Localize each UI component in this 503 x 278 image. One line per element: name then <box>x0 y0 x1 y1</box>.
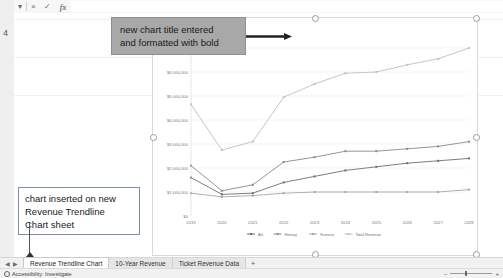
zoom-slider-thumb[interactable] <box>465 271 467 276</box>
chart-marker <box>314 83 316 85</box>
callout-line: and formatted with bold <box>120 36 245 49</box>
legend-label: History <box>285 232 297 237</box>
chevron-down-icon[interactable]: ▾ <box>18 3 22 11</box>
x-axis-tick-label: 2024 <box>341 220 351 225</box>
line-chart-svg: $0$1,000,000$2,000,000$3,000,000$4,000,0… <box>155 40 475 253</box>
first-sheet-icon[interactable]: ◀ <box>5 260 10 267</box>
chart-marker <box>406 64 408 66</box>
resize-handle-top[interactable] <box>312 15 319 22</box>
chart-x-axis-labels: 2019202020212022202320242025202620272028 <box>186 220 474 225</box>
resize-handle-top-right[interactable] <box>473 15 480 22</box>
sheet-tab-label: Revenue Trendline Chart <box>30 260 102 267</box>
chart-legend: ArtHistoryScienceTotal Revenue <box>247 232 382 237</box>
chart-marker <box>314 191 316 193</box>
chart-marker <box>437 145 439 147</box>
x-axis-tick-label: 2022 <box>279 220 289 225</box>
chart-marker <box>344 150 346 152</box>
chart-marker <box>314 175 316 177</box>
last-sheet-icon[interactable]: ▶ <box>13 260 18 267</box>
chart-marker <box>252 184 254 186</box>
y-axis-tick-label: $1,000,000 <box>167 190 189 195</box>
sheet-tab-label: 10-Year Revenue <box>115 260 165 267</box>
chart-line-total-revenue <box>191 48 469 150</box>
chart-marker <box>468 141 470 143</box>
callout-title-note: new chart title entered and formatted wi… <box>111 17 246 55</box>
sheet-tab-revenue-trendline-chart[interactable]: Revenue Trendline Chart <box>23 257 109 268</box>
legend-label: Art <box>258 232 264 237</box>
check-icon[interactable]: ✓ <box>44 3 51 11</box>
divider <box>26 2 27 11</box>
callout-arrow-title <box>246 33 292 40</box>
x-axis-tick-label: 2020 <box>217 220 227 225</box>
zoom-out-icon[interactable]: − <box>444 271 448 277</box>
chart-marker <box>375 166 377 168</box>
y-axis-tick-label: $6,000,000 <box>167 70 189 75</box>
chart-marker <box>252 192 254 194</box>
callout-line: chart inserted on new <box>25 192 133 205</box>
function-icon[interactable]: fx <box>60 2 67 12</box>
chart-marker <box>252 141 254 143</box>
x-axis-tick-label: 2027 <box>433 220 443 225</box>
chart-marker <box>283 96 285 98</box>
chart-line-history <box>191 142 469 191</box>
chart-marker <box>468 189 470 191</box>
y-axis-tick-label: $5,000,000 <box>167 94 189 99</box>
y-axis-tick-label: $3,000,000 <box>167 142 189 147</box>
chart-marker <box>252 195 254 197</box>
x-axis-tick-label: 2019 <box>186 220 196 225</box>
chart-marker <box>221 196 223 198</box>
callout-leader-line <box>29 222 30 256</box>
x-axis-tick-label: 2021 <box>248 220 258 225</box>
chart-marker <box>221 193 223 195</box>
row-header-gutter: 4 <box>0 0 15 258</box>
chart-marker <box>406 148 408 150</box>
sheet-tab-label: Ticket Revenue Data <box>179 260 239 267</box>
chart-series-group <box>190 47 470 198</box>
chart-marker <box>314 156 316 158</box>
chart-marker <box>437 191 439 193</box>
worksheet-canvas[interactable]: $0$1,000,000$2,000,000$3,000,000$4,000,0… <box>14 13 503 258</box>
x-axis-tick-label: 2025 <box>372 220 382 225</box>
y-axis-tick-label: $4,000,000 <box>167 118 189 123</box>
x-axis-tick-label: 2026 <box>403 220 413 225</box>
chart-marker <box>344 72 346 74</box>
excel-window: 4 ▾ × ✓ fx $0$1,000,000$2,000,000$3,000,… <box>0 0 503 278</box>
y-axis-tick-label: $2,000,000 <box>167 166 189 171</box>
chart-marker <box>375 150 377 152</box>
chart-marker <box>221 149 223 151</box>
chart-marker <box>221 190 223 192</box>
formula-bar[interactable]: ▾ × ✓ fx <box>14 0 503 14</box>
x-axis-tick-label: 2028 <box>464 220 474 225</box>
zoom-controls[interactable]: − + <box>444 271 503 277</box>
chart-marker <box>468 157 470 159</box>
chart-marker <box>468 47 470 49</box>
zoom-slider[interactable] <box>450 273 492 274</box>
close-icon[interactable]: × <box>31 3 36 11</box>
chart-marker <box>375 71 377 73</box>
callout-line: new chart title entered <box>120 23 245 36</box>
chart-marker <box>283 192 285 194</box>
chart-marker <box>437 160 439 162</box>
accessibility-status[interactable]: Accessibility: Investigate <box>0 271 72 277</box>
chart-marker <box>283 181 285 183</box>
zoom-in-icon[interactable]: + <box>495 271 499 277</box>
chart-marker <box>406 191 408 193</box>
formula-input[interactable] <box>71 1 503 12</box>
chart-gridlines <box>191 48 469 192</box>
accessibility-label: Accessibility: Investigate <box>12 271 72 277</box>
chart-marker <box>344 191 346 193</box>
chart-marker <box>344 169 346 171</box>
y-axis-tick-label: $0 <box>183 214 188 219</box>
callout-line: Chart sheet <box>25 218 133 231</box>
legend-label: Science <box>320 232 335 237</box>
row-header-label: 4 <box>3 28 8 42</box>
legend-label: Total Revenue <box>355 232 381 237</box>
status-bar: Accessibility: Investigate − + <box>0 268 503 278</box>
chart-marker <box>406 162 408 164</box>
chart-marker <box>283 161 285 163</box>
chart-marker <box>437 58 439 60</box>
x-axis-tick-label: 2023 <box>310 220 320 225</box>
chart-y-axis-labels: $0$1,000,000$2,000,000$3,000,000$4,000,0… <box>167 46 189 219</box>
callout-sheet-note: chart inserted on new Revenue Trendline … <box>18 187 140 235</box>
callout-line: Revenue Trendline <box>25 205 133 218</box>
